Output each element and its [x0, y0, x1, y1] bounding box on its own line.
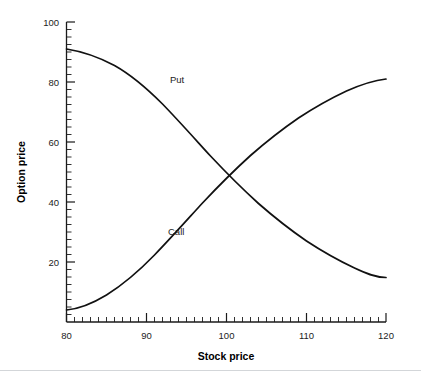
option-price-chart: 100 80 60 40 20 80 90 100 110 120 Option…: [0, 0, 421, 381]
y-tick-label-60: 60: [48, 137, 59, 148]
y-axis-major-ticks: [67, 22, 76, 262]
y-axis-minor-ticks: [67, 30, 72, 315]
x-tick-label-120: 120: [378, 330, 394, 341]
y-axis-title: Option price: [15, 141, 27, 203]
put-curve: [67, 49, 387, 278]
x-tick-label-100: 100: [219, 330, 235, 341]
y-tick-label-80: 80: [48, 77, 59, 88]
x-tick-label-90: 90: [141, 330, 152, 341]
bottom-divider: [0, 370, 421, 371]
y-tick-label-40: 40: [48, 197, 59, 208]
x-tick-label-110: 110: [299, 330, 314, 341]
chart-figure: 100 80 60 40 20 80 90 100 110 120 Option…: [0, 0, 421, 381]
x-axis-title: Stock price: [198, 350, 255, 362]
y-tick-label-20: 20: [48, 257, 59, 268]
y-tick-label-100: 100: [43, 17, 59, 28]
put-series-label: Put: [170, 74, 185, 85]
call-curve: [67, 79, 387, 310]
call-series-label: Call: [168, 226, 184, 237]
x-tick-label-80: 80: [61, 330, 72, 341]
